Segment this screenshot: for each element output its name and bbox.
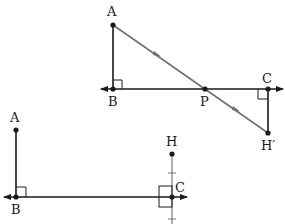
point-c-top: [265, 86, 270, 91]
label-b-bottom: B: [11, 202, 21, 217]
label-a-top: A: [106, 4, 117, 19]
reflection-diagram: A B P C H′ A B C H: [0, 0, 285, 224]
point-b-bottom: [13, 194, 18, 199]
label-a-bottom: A: [9, 110, 20, 125]
point-p: [202, 86, 207, 91]
point-h: [169, 151, 174, 156]
ray-arrow-icon: [232, 106, 240, 112]
ray-a-to-h-prime: [113, 25, 268, 133]
label-b-top: B: [108, 94, 118, 109]
label-c-top: C: [262, 71, 272, 86]
point-a-bottom: [13, 127, 18, 132]
point-b-top: [110, 86, 115, 91]
label-c-bottom: C: [175, 180, 185, 195]
bottom-figure: A B C H: [4, 110, 187, 224]
label-h-prime: H′: [261, 138, 275, 153]
top-figure: A B P C H′: [101, 4, 283, 153]
label-h: H: [166, 134, 177, 149]
point-h-prime: [265, 130, 270, 135]
ray-arrow-icon: [153, 51, 161, 57]
point-c-bottom: [169, 194, 174, 199]
point-a-top: [110, 22, 115, 27]
label-p: P: [200, 94, 209, 109]
